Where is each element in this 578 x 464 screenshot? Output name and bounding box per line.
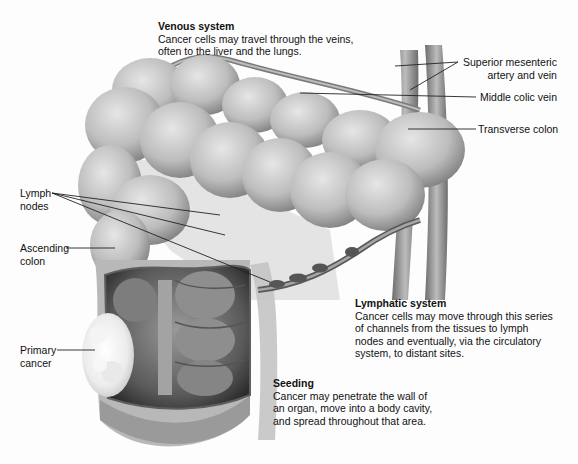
lymphatic-system-title: Lymphatic system — [355, 297, 553, 310]
ascending-colon-label: Ascending colon — [20, 242, 69, 267]
seeding-line: Cancer may penetrate the wall of — [273, 390, 432, 403]
label-line: Superior mesenteric — [463, 56, 557, 69]
label-line: Ascending — [20, 242, 69, 255]
middle-colic-vein-label: Middle colic vein — [480, 91, 557, 104]
primary-cancer-label: Primary cancer — [20, 344, 56, 369]
primary-tumor — [82, 313, 134, 397]
lymphatic-system-line: Cancer cells may move through this serie… — [355, 310, 553, 323]
lymphatic-system-line: nodes and eventually, via the circulator… — [355, 335, 553, 348]
label-line: cancer — [20, 357, 56, 370]
label-line: nodes — [20, 200, 51, 213]
venous-system-title: Venous system — [158, 20, 354, 33]
lymphatic-system-callout: Lymphatic system Cancer cells may move t… — [355, 297, 553, 360]
lymphatic-system-line: of channels from the tissues to lymph — [355, 322, 553, 335]
transverse-colon-label: Transverse colon — [478, 123, 558, 136]
lymph-nodes-label: Lymph nodes — [20, 187, 51, 212]
label-line: Primary — [20, 344, 56, 357]
label-line: colon — [20, 255, 69, 268]
venous-system-line: Cancer cells may travel through the vein… — [158, 33, 354, 46]
seeding-callout: Seeding Cancer may penetrate the wall of… — [273, 377, 432, 427]
label-line: Lymph — [20, 187, 51, 200]
seeding-title: Seeding — [273, 377, 432, 390]
superior-mesenteric-label: Superior mesenteric artery and vein — [463, 56, 557, 81]
venous-system-line: often to the liver and the lungs. — [158, 45, 354, 58]
lymphatic-system-line: system, to distant sites. — [355, 347, 553, 360]
seeding-line: and spread throughout that area. — [273, 415, 432, 428]
label-line: artery and vein — [463, 69, 557, 82]
venous-system-callout: Venous system Cancer cells may travel th… — [158, 20, 354, 58]
seeding-line: an organ, move into a body cavity, — [273, 402, 432, 415]
